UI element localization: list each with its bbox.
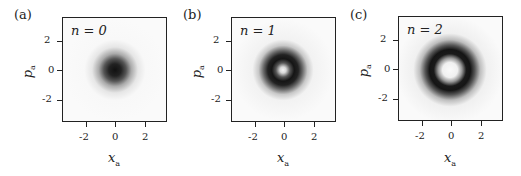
n-label: n = 0 <box>71 23 107 38</box>
x-tick <box>314 122 315 127</box>
panel-label: (b) <box>183 7 201 22</box>
y-tick-label: 0 <box>48 64 54 75</box>
x-tick-label: 2 <box>142 131 148 142</box>
y-tick-label: 2 <box>213 34 219 45</box>
y-tick-label: -2 <box>42 93 52 104</box>
x-tick <box>481 121 482 126</box>
y-tick-label: 2 <box>44 34 50 45</box>
x-tick <box>422 121 423 126</box>
y-tick <box>57 100 62 101</box>
x-tick <box>145 122 146 127</box>
y-tick <box>393 99 398 100</box>
plot-frame: n = 0 <box>62 17 167 122</box>
x-tick-label: -2 <box>79 131 89 142</box>
n-label: n = 2 <box>407 22 443 37</box>
x-tick <box>284 122 285 127</box>
y-axis-label: pa <box>20 65 38 78</box>
x-axis-label: xa <box>444 150 456 168</box>
panel-a: (a) n = 0 -2 0 2 2 0 -2 x <box>0 0 174 176</box>
panel-b: (b) n = 1 -2 0 2 <box>169 0 343 176</box>
x-tick-label: 2 <box>478 130 484 141</box>
panel-c: (c) n = 2 -2 0 2 <box>336 0 510 176</box>
x-tick-label: 0 <box>281 131 287 142</box>
x-tick-label: -2 <box>415 130 425 141</box>
y-tick-label: -2 <box>211 93 221 104</box>
y-tick-label: -2 <box>378 92 388 103</box>
x-tick-label: 2 <box>311 131 317 142</box>
x-tick-label: -2 <box>248 131 258 142</box>
y-tick <box>57 41 62 42</box>
x-tick-label: 0 <box>448 130 454 141</box>
plot-frame: n = 1 <box>231 17 336 122</box>
y-tick <box>393 40 398 41</box>
y-tick <box>226 100 231 101</box>
plot-frame: n = 2 <box>398 16 503 121</box>
x-tick-label: 0 <box>112 131 118 142</box>
y-tick <box>57 70 62 71</box>
x-axis-label: xa <box>108 150 120 168</box>
panel-label: (a) <box>14 7 32 22</box>
y-tick-label: 0 <box>384 63 390 74</box>
y-tick-label: 0 <box>217 64 223 75</box>
y-tick <box>393 69 398 70</box>
y-tick-label: 2 <box>380 33 386 44</box>
panel-label: (c) <box>350 7 367 22</box>
x-tick <box>255 122 256 127</box>
n-label: n = 1 <box>240 23 276 38</box>
y-axis-label: pa <box>356 64 374 77</box>
x-tick <box>451 121 452 126</box>
x-axis-label: xa <box>277 150 289 168</box>
x-tick <box>115 122 116 127</box>
x-tick <box>86 122 87 127</box>
y-axis-label: pa <box>189 65 207 78</box>
y-tick <box>226 41 231 42</box>
y-tick <box>226 70 231 71</box>
